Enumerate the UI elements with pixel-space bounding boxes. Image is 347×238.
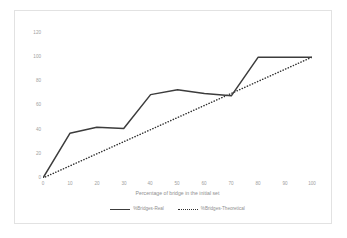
series-canvas xyxy=(43,33,312,178)
legend-label: %Bridges-Real xyxy=(133,206,164,212)
x-axis-title: Percentage of bridge in the initial set xyxy=(43,190,312,197)
series-line-theoretical xyxy=(43,57,312,178)
chart-figure: 120 100 80 60 40 20 0 0 10 20 30 40 50 6… xyxy=(0,0,347,238)
legend-item-real: %Bridges-Real xyxy=(110,206,164,212)
legend-item-theoretical: %Bridges-Theoretical xyxy=(178,206,245,212)
legend-swatch-dotted-icon xyxy=(178,209,198,210)
legend-swatch-solid-icon xyxy=(110,209,130,210)
chart-legend: %Bridges-Real %Bridges-Theoretical xyxy=(43,206,312,212)
plot-area xyxy=(43,33,312,178)
legend-label: %Bridges-Theoretical xyxy=(201,206,245,212)
